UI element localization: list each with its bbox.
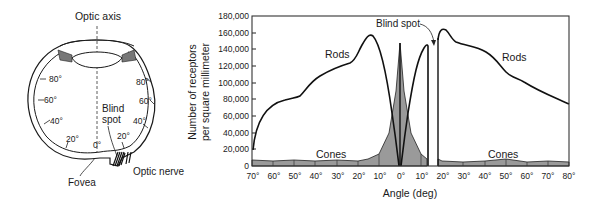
cones-area-right	[438, 159, 569, 166]
x-tick-50-left: 50°	[289, 171, 302, 181]
angle-label-left-80: 80°	[49, 74, 62, 84]
x-tick-20-left: 20°	[353, 171, 366, 181]
y-axis-title-line1: Number of receptors	[186, 44, 198, 140]
blind-spot-leader	[108, 126, 117, 156]
y-tick-100000: 100,000	[218, 78, 249, 88]
fovea-leader	[80, 158, 95, 176]
x-tick-70-left: 70°	[247, 171, 260, 181]
y-tick-60000: 60,000	[223, 111, 249, 121]
rods-label-right: Rods	[502, 51, 527, 63]
x-tick-0: 0°	[397, 171, 405, 181]
y-tick-120000: 120,000	[218, 61, 249, 71]
blind-spot-chart-label: Blind spot	[376, 18, 420, 29]
y-tick-80000: 80,000	[223, 94, 249, 104]
x-tick-20-right: 20°	[437, 171, 450, 181]
y-tick-20000: 20,000	[223, 144, 249, 154]
angle-label-left-40: 40°	[50, 116, 63, 126]
x-tick-80-right: 80°	[563, 171, 576, 181]
angle-label-right-20: 20°	[117, 131, 130, 141]
blind-spot-arrow	[420, 24, 434, 42]
x-tick-30-left: 30°	[332, 171, 345, 181]
ciliary-body-left	[58, 50, 72, 62]
angle-label-center-0: 0°	[93, 140, 101, 150]
x-tick-30-right: 30°	[458, 171, 471, 181]
figure-canvas: Optic axis 80° 60° 40° 20° 0° 80° 60° 40…	[0, 0, 604, 210]
x-tick-60-left: 60°	[268, 171, 281, 181]
receptor-density-chart: Number of receptors per square millimete…	[186, 11, 575, 199]
y-axis-title-line2: per square millimeter	[199, 42, 211, 141]
lens	[72, 52, 122, 68]
rods-label-left: Rods	[325, 48, 350, 60]
y-tick-140000: 140,000	[218, 44, 249, 54]
y-tick-160000: 160,000	[218, 28, 249, 38]
rods-curve-right	[438, 29, 569, 104]
cones-label-right: Cones	[488, 148, 518, 160]
y-tick-40000: 40,000	[223, 128, 249, 138]
x-tick-40-left: 40°	[310, 171, 323, 181]
ciliary-body-right	[122, 50, 136, 62]
x-tick-10-right: 10°	[416, 171, 429, 181]
y-axis-tick-labels: 180,000 160,000 140,000 120,000 100,000 …	[218, 11, 249, 171]
eye-diagram: Optic axis 80° 60° 40° 20° 0° 80° 60° 40…	[28, 10, 185, 188]
angle-label-left-60: 60°	[44, 95, 57, 105]
x-tick-10-left: 10°	[374, 171, 387, 181]
fovea-label: Fovea	[68, 177, 96, 188]
x-tick-40-right: 40°	[479, 171, 492, 181]
y-axis-tick-marks	[252, 33, 256, 149]
x-axis-title: Angle (deg)	[383, 187, 437, 199]
x-axis-tick-labels: 70° 60° 50° 40° 30° 20° 10° 0° 10° 20° 3…	[247, 171, 576, 181]
cones-label-left: Cones	[316, 148, 346, 160]
blind-spot-arrowhead-icon	[431, 40, 436, 46]
optic-nerve-fibers	[113, 152, 131, 166]
x-tick-70-right: 70°	[542, 171, 555, 181]
optic-axis-label: Optic axis	[75, 10, 121, 22]
angle-label-left-20: 20°	[66, 134, 79, 144]
angle-label-right-60: 60°	[139, 96, 152, 106]
blind-spot-label-line1: Blind	[102, 103, 124, 114]
x-tick-50-right: 50°	[500, 171, 513, 181]
optic-nerve-label: Optic nerve	[133, 166, 185, 177]
y-tick-180000: 180,000	[218, 11, 249, 21]
blind-spot-label-line2: spot	[102, 114, 121, 125]
y-tick-0: 0	[244, 161, 249, 171]
x-tick-60-right: 60°	[521, 171, 534, 181]
tick-right-20	[122, 142, 124, 148]
